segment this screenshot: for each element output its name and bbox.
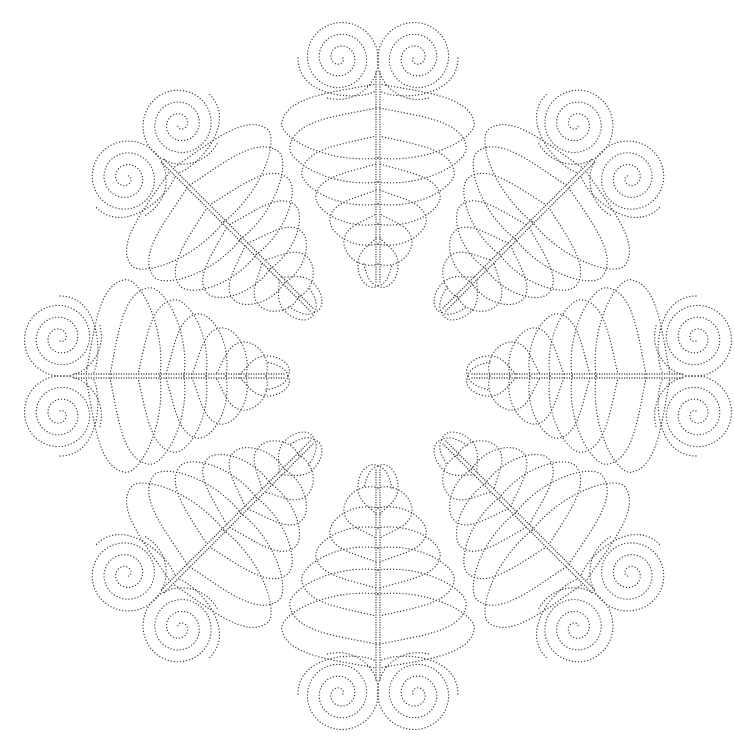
feather-plume (452, 513, 567, 628)
feather-plume (499, 206, 602, 309)
feather-plume (290, 569, 378, 644)
feather-plume (188, 124, 303, 239)
feather-plume (282, 84, 378, 159)
feather-plume (378, 487, 412, 538)
feather-plume (138, 376, 207, 452)
feather-motif (373, 58, 697, 382)
feather-plume (358, 238, 378, 287)
feather-plume (86, 376, 161, 472)
feather-plume (110, 376, 185, 464)
feather-plume (240, 376, 289, 396)
feather-wreath (25, 23, 732, 730)
feather-plume (595, 280, 670, 376)
feather-motif (467, 280, 732, 473)
feather-plume (445, 152, 548, 255)
feather-plume (378, 238, 398, 287)
feather-plume (208, 152, 311, 255)
spiral-curl (25, 305, 102, 376)
feather-plume (436, 468, 509, 541)
feather-plume (441, 182, 528, 269)
feather-plume (192, 328, 247, 376)
feather-tip (364, 264, 392, 286)
feather-motif (282, 23, 475, 288)
spine-line (164, 159, 313, 308)
feather-plume (378, 547, 454, 616)
feather-plume (378, 593, 474, 668)
feather-motif (25, 280, 290, 473)
feather-plume (344, 214, 378, 265)
feather-plume (302, 547, 378, 616)
spiral-curl (378, 653, 449, 730)
feather-plume (126, 186, 241, 301)
spiral-curl (573, 126, 678, 231)
feather-plume (549, 300, 618, 376)
spiral-connector (155, 95, 237, 177)
feather-tip (364, 466, 392, 488)
feather-motif (60, 371, 384, 695)
spine-line (161, 441, 310, 590)
feather-plume (290, 108, 378, 183)
feather-plume (166, 314, 227, 376)
feather-plume (463, 101, 584, 222)
feather-plume (571, 376, 646, 464)
feather-plume (485, 439, 572, 526)
feather-plume (240, 356, 289, 376)
feather-plume (378, 136, 454, 205)
feather-plume (316, 527, 378, 588)
feather-plume (378, 84, 474, 159)
feather-tip (289, 287, 324, 322)
feather-plume (138, 300, 207, 376)
spiral-connector (578, 153, 660, 235)
feather-plume (282, 593, 378, 668)
spiral-curl (655, 305, 732, 376)
feather-plume (378, 569, 466, 644)
spiral-connector (60, 296, 98, 374)
feather-plume (378, 164, 440, 225)
feather-plume (316, 164, 378, 225)
feather-plume (529, 314, 590, 376)
feather-plume (499, 443, 602, 546)
spiral-curl (378, 23, 449, 100)
spine-line (164, 444, 313, 593)
spiral-connector (520, 576, 602, 658)
spiral-connector (658, 378, 696, 456)
spiral-curl (78, 126, 183, 231)
feather-plume (212, 244, 285, 317)
spiral-curl (524, 76, 629, 181)
feather-plume (571, 288, 646, 376)
spiral-curl (128, 571, 233, 676)
feather-plume (172, 530, 293, 651)
feather-plume (485, 226, 572, 313)
feather-plume (166, 376, 227, 438)
spiral-curl (307, 23, 378, 100)
spiral-curl (128, 76, 233, 181)
feather-plume (228, 483, 315, 570)
quilt-stencil-design (0, 0, 735, 745)
feather-plume (378, 190, 426, 245)
feather-plume (302, 136, 378, 205)
feather-tip (432, 430, 467, 465)
feather-plume (441, 483, 528, 570)
feather-plume (532, 170, 653, 291)
feather-plume (126, 450, 241, 565)
feather-plume (188, 513, 303, 628)
spiral-connector (155, 576, 237, 658)
spiral-curl (78, 522, 183, 627)
feather-plume (184, 439, 271, 526)
feather-plume (436, 210, 509, 283)
feather-plume (445, 497, 548, 600)
spiral-connector (380, 58, 458, 96)
feather-plume (103, 170, 224, 291)
feather-plume (595, 376, 670, 472)
spiral-connector (298, 58, 376, 96)
spine-line (443, 159, 592, 308)
spine-line (443, 444, 592, 593)
spiral-connector (578, 518, 660, 600)
feather-plume (110, 288, 185, 376)
spiral-connector (97, 153, 179, 235)
spiral-curl (524, 571, 629, 676)
feather-plume (467, 356, 516, 376)
feather-tip (432, 287, 467, 322)
feather-plume (549, 376, 618, 452)
feather-plume (532, 461, 653, 582)
